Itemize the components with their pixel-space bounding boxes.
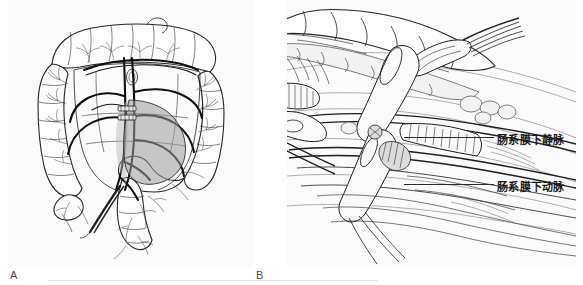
leader-line-imv: [404, 137, 494, 138]
lymph-node-left: [341, 122, 357, 134]
leader-line-ima: [404, 184, 494, 185]
callout-inferior-mesenteric-artery: 肠系膜下动脉: [497, 178, 565, 194]
panel-label-a: A: [10, 269, 18, 281]
lymph-node-cluster: [460, 96, 516, 124]
colon-anatomy-drawing: [8, 0, 253, 268]
panel-a-illustration: A: [8, 0, 253, 268]
instrument-left-grasper: [287, 83, 335, 174]
figure-baseline-rule: [48, 280, 378, 281]
callout-inferior-mesenteric-vein: 肠系膜下静脉: [497, 131, 565, 147]
vessel-clip-upper: [118, 106, 136, 111]
vessel-clip-lower: [118, 115, 136, 120]
figure-container: A: [0, 0, 583, 285]
